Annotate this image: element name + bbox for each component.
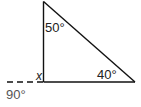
angle-label-40: 40° [97,68,117,81]
angle-label-x: x [36,70,42,82]
triangle-diagram: 50° 40° x 90° [0,0,141,107]
hypotenuse [44,2,136,83]
angle-label-50: 50° [45,21,65,34]
angle-label-90: 90° [6,88,26,101]
